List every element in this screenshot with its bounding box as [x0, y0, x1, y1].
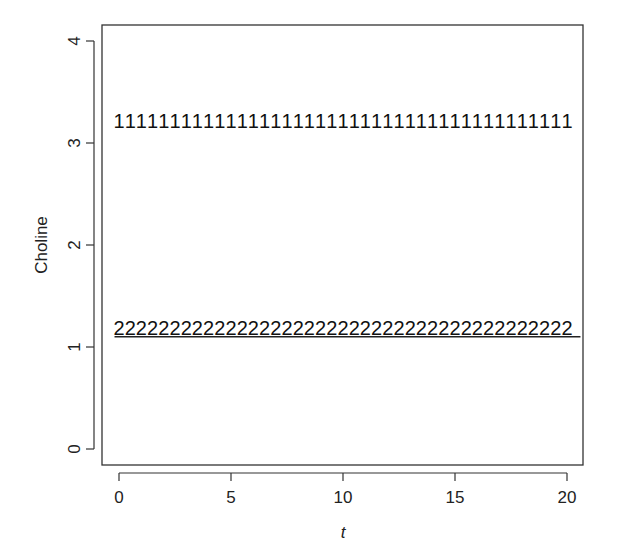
- data-point-marker: 2: [405, 317, 416, 339]
- data-point-marker: 2: [517, 317, 528, 339]
- data-point-marker: 2: [337, 317, 348, 339]
- data-point-marker: 2: [472, 317, 483, 339]
- y-tick-label: 0: [65, 444, 84, 453]
- data-point-marker: 2: [125, 317, 136, 339]
- data-point-marker: 1: [270, 110, 281, 132]
- data-point-marker: 2: [539, 317, 550, 339]
- plot-frame: [102, 25, 583, 465]
- data-point-marker: 2: [393, 317, 404, 339]
- x-tick-label: 20: [558, 488, 577, 507]
- data-point-marker: 1: [371, 110, 382, 132]
- y-tick-label: 3: [65, 138, 84, 147]
- data-point-marker: 2: [225, 317, 236, 339]
- data-point-marker: 2: [371, 317, 382, 339]
- y-tick-label: 4: [65, 36, 84, 45]
- data-point-marker: 1: [304, 110, 315, 132]
- data-point-marker: 1: [427, 110, 438, 132]
- data-point-marker: 1: [315, 110, 326, 132]
- data-point-marker: 2: [158, 317, 169, 339]
- data-point-marker: 1: [517, 110, 528, 132]
- data-point-marker: 1: [169, 110, 180, 132]
- data-point-marker: 1: [192, 110, 203, 132]
- data-point-marker: 1: [360, 110, 371, 132]
- data-point-marker: 1: [248, 110, 259, 132]
- data-point-marker: 2: [281, 317, 292, 339]
- data-point-marker: 2: [214, 317, 225, 339]
- data-point-marker: 2: [259, 317, 270, 339]
- y-tick-label: 2: [65, 240, 84, 249]
- data-point-marker: 1: [214, 110, 225, 132]
- data-point-marker: 2: [136, 317, 147, 339]
- data-point-marker: 2: [461, 317, 472, 339]
- data-point-marker: 1: [393, 110, 404, 132]
- x-tick-label: 5: [226, 488, 235, 507]
- series-2: 2222222222222222222222222222222222222222…: [113, 317, 572, 339]
- data-point-marker: 2: [293, 317, 304, 339]
- data-point-marker: 1: [225, 110, 236, 132]
- data-point-marker: 2: [192, 317, 203, 339]
- data-point-marker: 1: [147, 110, 158, 132]
- data-point-marker: 2: [304, 317, 315, 339]
- data-point-marker: 2: [494, 317, 505, 339]
- data-point-marker: 1: [326, 110, 337, 132]
- data-point-marker: 1: [550, 110, 561, 132]
- data-point-marker: 2: [438, 317, 449, 339]
- data-point-marker: 2: [270, 317, 281, 339]
- data-point-marker: 2: [237, 317, 248, 339]
- y-axis-label: Choline: [32, 216, 51, 274]
- data-point-marker: 1: [113, 110, 124, 132]
- data-point-marker: 2: [427, 317, 438, 339]
- data-point-marker: 1: [293, 110, 304, 132]
- data-point-marker: 1: [449, 110, 460, 132]
- data-point-marker: 1: [181, 110, 192, 132]
- data-point-marker: 1: [505, 110, 516, 132]
- data-point-marker: 1: [461, 110, 472, 132]
- data-point-marker: 1: [494, 110, 505, 132]
- x-tick-label: 15: [446, 488, 465, 507]
- data-point-marker: 2: [416, 317, 427, 339]
- data-point-marker: 1: [237, 110, 248, 132]
- data-point-marker: 1: [539, 110, 550, 132]
- data-point-marker: 2: [147, 317, 158, 339]
- x-axis: 05101520: [114, 473, 576, 507]
- data-point-marker: 2: [382, 317, 393, 339]
- data-point-marker: 2: [248, 317, 259, 339]
- series-1: 1111111111111111111111111111111111111111…: [113, 110, 572, 132]
- data-point-marker: 2: [550, 317, 561, 339]
- data-point-marker: 1: [528, 110, 539, 132]
- data-point-marker: 1: [349, 110, 360, 132]
- data-point-marker: 1: [561, 110, 572, 132]
- x-tick-label: 10: [334, 488, 353, 507]
- data-point-marker: 2: [181, 317, 192, 339]
- data-point-marker: 2: [326, 317, 337, 339]
- data-point-marker: 2: [483, 317, 494, 339]
- x-axis-label: t: [341, 523, 347, 542]
- data-point-marker: 2: [113, 317, 124, 339]
- x-tick-label: 0: [114, 488, 123, 507]
- data-point-marker: 1: [203, 110, 214, 132]
- data-point-marker: 2: [315, 317, 326, 339]
- data-point-marker: 1: [416, 110, 427, 132]
- data-point-marker: 2: [360, 317, 371, 339]
- data-series: 1111111111111111111111111111111111111111…: [113, 110, 572, 339]
- data-point-marker: 2: [505, 317, 516, 339]
- data-point-marker: 1: [158, 110, 169, 132]
- data-point-marker: 1: [337, 110, 348, 132]
- data-point-marker: 2: [449, 317, 460, 339]
- data-point-marker: 1: [438, 110, 449, 132]
- data-point-marker: 1: [483, 110, 494, 132]
- data-point-marker: 1: [125, 110, 136, 132]
- data-point-marker: 1: [382, 110, 393, 132]
- data-point-marker: 1: [472, 110, 483, 132]
- data-point-marker: 1: [259, 110, 270, 132]
- data-point-marker: 1: [405, 110, 416, 132]
- data-point-marker: 1: [281, 110, 292, 132]
- choline-chart: 05101520 01234 1111111111111111111111111…: [0, 0, 624, 559]
- y-tick-label: 1: [65, 342, 84, 351]
- data-point-marker: 2: [561, 317, 572, 339]
- y-axis: 01234: [65, 36, 94, 453]
- data-point-marker: 2: [169, 317, 180, 339]
- data-point-marker: 2: [528, 317, 539, 339]
- data-point-marker: 1: [136, 110, 147, 132]
- data-point-marker: 2: [349, 317, 360, 339]
